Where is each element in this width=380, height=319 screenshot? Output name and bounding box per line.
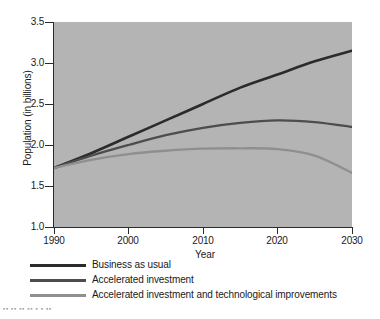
y-tick-label-3-5: 3.5 <box>14 17 44 27</box>
legend-item-accelerated-investment: Accelerated investment <box>30 273 375 288</box>
x-tick-label-2030: 2030 <box>330 236 374 246</box>
y-tick-1-0 <box>45 227 54 228</box>
x-tick-label-2010: 2010 <box>181 236 225 246</box>
legend-label-business-as-usual: Business as usual <box>92 258 171 272</box>
plot-curves <box>54 22 352 227</box>
legend-label-accelerated-investment-technological: Accelerated investment and technological… <box>92 288 337 302</box>
scan-artifact-text: ▪▪ ▪▪ ▪▪ ▪▪ ▪ ▪ ▪▪ <box>3 305 52 313</box>
y-tick-2-5 <box>45 104 54 105</box>
legend-swatch-accelerated-investment <box>30 279 86 282</box>
legend-label-accelerated-investment: Accelerated investment <box>92 273 194 287</box>
y-axis-title: Population (in billions) <box>23 33 33 203</box>
y-axis-line <box>53 22 54 228</box>
x-tick-label-2000: 2000 <box>106 236 150 246</box>
y-tick-3-0 <box>45 63 54 64</box>
x-tick-2010 <box>203 228 204 234</box>
x-tick-label-2020: 2020 <box>255 236 299 246</box>
series-line-1 <box>54 120 352 168</box>
x-tick-2030 <box>352 228 353 234</box>
chart-figure: 3.5 3.0 2.5 2.0 1.5 1.0 1990 2000 2010 2… <box>0 0 380 319</box>
plot-area <box>54 22 352 227</box>
chart-legend: Business as usual Accelerated investment… <box>30 258 375 303</box>
legend-swatch-accelerated-investment-technological <box>30 294 86 297</box>
series-line-0 <box>54 51 352 168</box>
legend-item-business-as-usual: Business as usual <box>30 258 375 273</box>
series-line-2 <box>54 148 352 173</box>
legend-swatch-business-as-usual <box>30 264 86 267</box>
legend-item-accelerated-investment-technological: Accelerated investment and technological… <box>30 288 375 303</box>
x-tick-2020 <box>277 228 278 234</box>
y-tick-2-0 <box>45 145 54 146</box>
y-tick-label-1-0: 1.0 <box>14 222 44 232</box>
x-tick-label-1990: 1990 <box>32 236 76 246</box>
y-tick-3-5 <box>45 22 54 23</box>
x-tick-1990 <box>54 228 55 234</box>
x-tick-2000 <box>128 228 129 234</box>
y-tick-1-5 <box>45 186 54 187</box>
